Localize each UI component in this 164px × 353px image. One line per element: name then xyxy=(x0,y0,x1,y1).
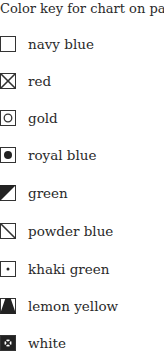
legend-label: gold xyxy=(28,109,58,127)
legend-label: khaki green xyxy=(28,260,109,278)
page-title: Color key for chart on page xyxy=(0,0,164,17)
legend-item-red: red xyxy=(0,72,51,90)
circle-square-icon xyxy=(0,110,16,126)
legend-item-lemon-yellow: lemon yellow xyxy=(0,297,118,315)
empty-square-icon xyxy=(0,36,16,52)
triangle-square-icon xyxy=(0,298,16,314)
diagonal-line-square-icon xyxy=(0,223,16,239)
filled-dot-square-icon xyxy=(0,147,16,163)
legend-label: green xyxy=(28,184,68,202)
legend-label: white xyxy=(28,334,66,352)
legend-item-royal-blue: royal blue xyxy=(0,146,97,164)
legend-label: royal blue xyxy=(28,146,97,164)
legend-label: navy blue xyxy=(28,35,94,53)
legend-item-white: white xyxy=(0,334,66,352)
legend-label: lemon yellow xyxy=(28,297,118,315)
small-dot-square-icon xyxy=(0,261,16,277)
x-square-icon xyxy=(0,73,16,89)
legend-item-green: green xyxy=(0,184,68,202)
legend-item-powder-blue: powder blue xyxy=(0,222,113,240)
legend-item-navy-blue: navy blue xyxy=(0,35,94,53)
inverse-pattern-square-icon xyxy=(0,335,16,351)
legend-item-khaki-green: khaki green xyxy=(0,260,109,278)
legend-label: powder blue xyxy=(28,222,113,240)
legend-item-gold: gold xyxy=(0,109,58,127)
legend-label: red xyxy=(28,72,51,90)
half-filled-diagonal-square-icon xyxy=(0,185,16,201)
